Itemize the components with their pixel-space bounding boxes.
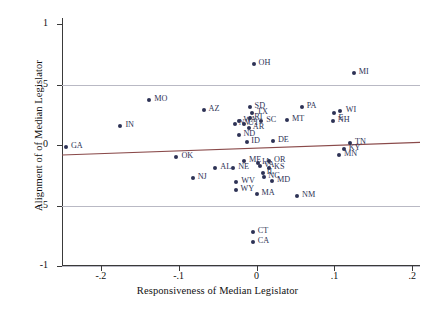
y-axis-tick bbox=[57, 145, 62, 146]
data-point[interactable] bbox=[348, 141, 352, 145]
data-point-label: TN bbox=[355, 137, 366, 146]
data-point-label: CT bbox=[258, 226, 268, 235]
data-point[interactable] bbox=[213, 166, 217, 170]
data-point[interactable] bbox=[174, 155, 178, 159]
data-point-label: OK bbox=[181, 151, 193, 160]
data-point[interactable] bbox=[64, 145, 68, 149]
data-point[interactable] bbox=[252, 62, 256, 66]
data-point-label: WI bbox=[346, 105, 356, 114]
gridline bbox=[62, 266, 420, 267]
data-point-label: ID bbox=[251, 136, 260, 145]
data-point-label: MI bbox=[359, 67, 369, 76]
data-point[interactable] bbox=[300, 105, 304, 109]
data-point-label: DE bbox=[278, 135, 289, 144]
y-axis-tick bbox=[57, 24, 62, 25]
data-point-label: SC bbox=[266, 115, 276, 124]
data-point[interactable] bbox=[202, 108, 206, 112]
data-point[interactable] bbox=[237, 133, 241, 137]
data-point[interactable] bbox=[234, 180, 238, 184]
data-point-label: KS bbox=[274, 162, 284, 171]
data-point[interactable] bbox=[262, 175, 266, 179]
data-point[interactable] bbox=[270, 179, 274, 183]
y-axis-tick-label: 1 bbox=[8, 17, 48, 28]
data-point[interactable] bbox=[251, 230, 255, 234]
data-point[interactable] bbox=[295, 194, 299, 198]
data-point[interactable] bbox=[191, 176, 195, 180]
plot-area: -1-.50.51-.2-.10.1.2GAINMOOKNJAZALNEWVWY… bbox=[62, 18, 420, 266]
y-axis-tick bbox=[57, 206, 62, 207]
data-point-label: MO bbox=[154, 94, 167, 103]
data-point[interactable] bbox=[337, 153, 341, 157]
data-point[interactable] bbox=[251, 240, 255, 244]
data-point[interactable] bbox=[242, 159, 246, 163]
data-point-label: IA bbox=[262, 157, 271, 166]
data-point[interactable] bbox=[255, 192, 259, 196]
data-point[interactable] bbox=[256, 161, 260, 165]
data-point-label: IN bbox=[125, 120, 134, 129]
y-axis-tick bbox=[57, 85, 62, 86]
data-point-label: CA bbox=[258, 236, 269, 245]
data-point[interactable] bbox=[332, 111, 336, 115]
data-point[interactable] bbox=[233, 122, 237, 126]
scatter-plot: Alignment of of Median Legislator Respon… bbox=[0, 0, 435, 309]
data-point-label: MN bbox=[344, 149, 357, 158]
data-point-label: AZ bbox=[209, 104, 220, 113]
data-point-label: PA bbox=[307, 101, 317, 110]
data-point[interactable] bbox=[250, 111, 254, 115]
regression-line bbox=[62, 18, 420, 266]
data-point[interactable] bbox=[271, 139, 275, 143]
x-axis-tick-label: .1 bbox=[314, 270, 354, 281]
gridline bbox=[62, 85, 420, 86]
y-axis-title: Alignment of of Median Legislator bbox=[33, 26, 44, 246]
data-point[interactable] bbox=[234, 188, 238, 192]
y-axis-tick bbox=[57, 266, 62, 267]
x-axis-tick-label: 0 bbox=[237, 270, 277, 281]
y-axis-tick-label: .5 bbox=[8, 78, 48, 89]
data-point-label: WY bbox=[241, 184, 255, 193]
data-point[interactable] bbox=[285, 118, 289, 122]
data-point-label: OH bbox=[259, 58, 271, 67]
x-axis-title: Responsiveness of Median Legislator bbox=[0, 285, 435, 296]
data-point[interactable] bbox=[352, 71, 356, 75]
gridline bbox=[62, 206, 420, 207]
y-axis-tick-label: 0 bbox=[8, 138, 48, 149]
data-point[interactable] bbox=[245, 140, 249, 144]
data-point-label: NJ bbox=[198, 172, 207, 181]
data-point-label: MT bbox=[292, 114, 304, 123]
data-point-label: NH bbox=[338, 115, 350, 124]
x-axis-tick-label: -.1 bbox=[159, 270, 199, 281]
data-point-label: GA bbox=[71, 141, 83, 150]
data-point-label: NE bbox=[238, 162, 249, 171]
data-point[interactable] bbox=[231, 166, 235, 170]
y-axis-tick-label: -.5 bbox=[8, 199, 48, 210]
data-point[interactable] bbox=[242, 122, 246, 126]
data-point-label: MD bbox=[277, 175, 290, 184]
data-point[interactable] bbox=[331, 119, 335, 123]
data-point[interactable] bbox=[248, 105, 252, 109]
data-point[interactable] bbox=[118, 124, 122, 128]
x-axis-tick-label: -.2 bbox=[81, 270, 121, 281]
data-point-label: AL bbox=[220, 162, 231, 171]
data-point[interactable] bbox=[147, 98, 151, 102]
data-point-label: MA bbox=[262, 188, 275, 197]
y-axis-tick-label: -1 bbox=[8, 259, 48, 270]
data-point-label: NM bbox=[302, 190, 315, 199]
x-axis-tick-label: .2 bbox=[392, 270, 432, 281]
